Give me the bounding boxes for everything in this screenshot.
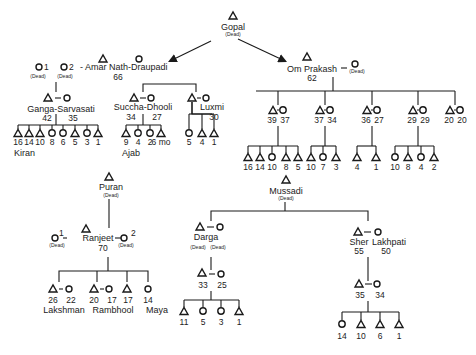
wife2-status: (Dead) [57, 73, 73, 79]
svg-text:Rambhool: Rambhool [92, 305, 133, 315]
child-age: 4 [419, 162, 424, 172]
svg-text:(Dead): (Dead) [210, 244, 226, 250]
child-node: 2 [430, 146, 438, 172]
svg-text:35: 35 [355, 290, 365, 300]
husband-age: 20 [444, 115, 454, 125]
female-icon [280, 107, 286, 113]
child-age: 7 [321, 162, 326, 172]
male-icon [446, 107, 454, 114]
male-icon [269, 107, 277, 114]
female-icon [218, 271, 224, 277]
svg-text:35: 35 [68, 113, 78, 123]
node-puran: Puran (Dead) [99, 173, 123, 198]
couple-darga: Darga (Dead) (Dead) [190, 223, 226, 250]
svg-text:17: 17 [123, 295, 133, 305]
child-node: 10 [35, 125, 45, 147]
sibling-group: 141061 [337, 312, 403, 341]
svg-text:55: 55 [354, 246, 364, 256]
female-icon [147, 130, 153, 136]
svg-text:Ranjeet: Ranjeet [82, 233, 114, 243]
male-icon [130, 94, 138, 101]
child-age: 6 mo [152, 137, 171, 147]
child-age: 1 [237, 317, 242, 327]
svg-text:33: 33 [198, 280, 208, 290]
male-icon [196, 223, 204, 230]
svg-text:17: 17 [107, 295, 117, 305]
child-node: 4 [198, 114, 206, 147]
child-node: 3 [218, 300, 224, 327]
male-icon [256, 154, 264, 161]
male-icon [363, 107, 371, 114]
female-icon [36, 64, 42, 70]
couple-darga-son: 33 25 [198, 269, 227, 290]
svg-text:Succha-Dhooli: Succha-Dhooli [114, 102, 173, 112]
child-age: 14 [337, 331, 347, 341]
female-icon [135, 130, 141, 136]
svg-text:34: 34 [126, 112, 136, 122]
male-icon [282, 176, 290, 183]
male-icon [409, 107, 417, 114]
node-om-prakash: Om Prakash 62 (Dead) [287, 53, 365, 83]
svg-text:(Dead): (Dead) [190, 244, 206, 250]
male-icon [105, 173, 113, 180]
child-node: 5 [200, 300, 206, 327]
female-icon [375, 229, 381, 235]
child-name: Kiran [14, 148, 35, 158]
arrow-to-amar [170, 41, 211, 61]
male-icon [282, 154, 290, 161]
child-age: 10 [390, 162, 400, 172]
female-icon [457, 107, 463, 113]
couple-node: 3937 [267, 91, 290, 146]
male-icon [229, 12, 237, 19]
female-icon [106, 286, 112, 292]
male-icon [354, 228, 362, 235]
male-icon [123, 285, 131, 292]
child-node: 5 [71, 125, 79, 147]
male-icon [294, 154, 302, 161]
svg-text:Maya: Maya [146, 305, 168, 315]
svg-text:2: 2 [131, 228, 136, 238]
child-node: 10 [267, 146, 277, 172]
child-age: 6 [378, 331, 383, 341]
female-icon [203, 95, 209, 101]
svg-text:(Dead): (Dead) [118, 242, 134, 248]
child-age: 10 [267, 162, 277, 172]
svg-text:(Dead): (Dead) [349, 68, 365, 74]
child-name: Ajab [122, 148, 140, 158]
child-age: 14 [24, 137, 34, 147]
wife2-index: 2 [69, 62, 74, 72]
svg-text:1: 1 [59, 228, 64, 238]
male-icon [36, 130, 44, 137]
child-node: 7 [320, 146, 326, 172]
child-node: 14 [337, 312, 347, 341]
child-node: 4 [135, 125, 141, 147]
child-age: 10 [306, 162, 316, 172]
female-icon [352, 61, 358, 67]
child-node: 8 [404, 146, 412, 172]
couple-node: 3734 [314, 91, 337, 146]
node-mussadi: Mussadi (Dead) [269, 176, 303, 201]
child-age: 10 [35, 137, 45, 147]
male-icon [353, 154, 361, 161]
male-icon [44, 94, 52, 101]
kinship-diagram: Gopal (Dead) 1 (Dead) 2 (Dead) - Amar Na… [0, 0, 476, 355]
svg-text:34: 34 [375, 290, 385, 300]
male-icon [430, 154, 438, 161]
svg-text:Puran: Puran [99, 182, 123, 192]
sibling-group: 9Ajab426 mo [122, 125, 171, 158]
svg-text:14: 14 [143, 295, 153, 305]
child-age: 1 [397, 331, 402, 341]
child-age: 4 [355, 162, 360, 172]
gopal-status: (Dead) [225, 31, 241, 37]
child-node: 6 [60, 125, 66, 147]
male-icon [122, 130, 130, 137]
female-icon [66, 286, 72, 292]
male-icon [198, 130, 206, 137]
female-icon [186, 130, 192, 136]
female-icon [64, 95, 70, 101]
couple-sher-lakhpati: Sher 55 Lakhpati 50 [349, 228, 406, 256]
child-age: 3 [85, 137, 90, 147]
sibling-group: 41 [353, 146, 380, 172]
male-icon [94, 130, 102, 137]
male-icon [307, 154, 315, 161]
